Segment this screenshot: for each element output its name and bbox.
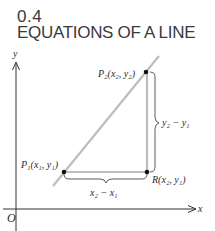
- r-label: R(x₂, y₁): [151, 174, 186, 186]
- vertical-distance-label: y₂ − y₁: [161, 117, 190, 128]
- horizontal-brace-icon: [64, 174, 147, 183]
- y-axis-label: y: [12, 48, 18, 59]
- p2-label: P₂(x₂, y₂): [97, 68, 136, 80]
- origin-label: O: [7, 211, 16, 225]
- point-p2: [144, 70, 149, 75]
- horizontal-distance-label: x₂ − x₁: [89, 187, 118, 198]
- vertical-brace-icon: [150, 72, 159, 172]
- y-axis: y: [12, 48, 20, 231]
- x-axis: x O: [3, 203, 203, 225]
- x-axis-label: x: [197, 203, 203, 214]
- point-p1: [62, 170, 67, 175]
- line-diagram: y x O P₂(x₂, y₂) P₁(x₁, y₁) R(x₂, y₁) x₂…: [0, 0, 215, 231]
- point-r: [145, 170, 150, 175]
- p1-label: P₁(x₁, y₁): [20, 159, 59, 171]
